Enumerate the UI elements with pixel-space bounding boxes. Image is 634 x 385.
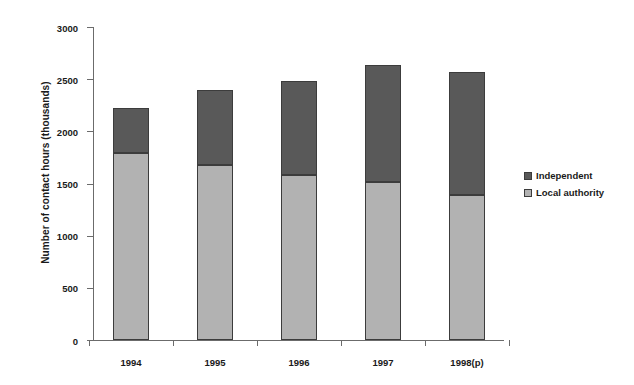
y-axis-tick-label: 500 — [62, 283, 78, 294]
bar-segment-local-authority[interactable] — [113, 153, 149, 340]
y-axis-tick: 1500 — [87, 184, 94, 185]
y-axis-tick-label: 1500 — [57, 179, 78, 190]
bar-segment-local-authority[interactable] — [449, 195, 485, 340]
legend-swatch-icon — [524, 189, 532, 197]
y-axis-tick: 1000 — [87, 236, 94, 237]
y-axis-tick: 2500 — [87, 79, 94, 80]
x-axis-tick-label: 1996 — [288, 357, 309, 368]
y-axis-tick-label: 2000 — [57, 126, 78, 137]
x-axis-tick — [425, 340, 426, 346]
y-axis-tick: 3000 — [87, 27, 94, 28]
bar-stack[interactable] — [113, 26, 149, 340]
legend-swatch-icon — [524, 172, 532, 180]
bar-segment-independent[interactable] — [113, 108, 149, 153]
chart-legend: IndependentLocal authority — [524, 168, 634, 202]
bar-stack[interactable] — [197, 26, 233, 340]
bar-stack[interactable] — [449, 26, 485, 340]
x-axis-tick-label: 1994 — [120, 357, 141, 368]
bar-segment-independent[interactable] — [197, 90, 233, 165]
bar-stack[interactable] — [365, 26, 401, 340]
x-axis-tick-label: 1998(p) — [450, 357, 483, 368]
x-axis-tick-label: 1997 — [372, 357, 393, 368]
y-axis-tick-label: 2500 — [57, 74, 78, 85]
legend-label: Independent — [536, 170, 592, 181]
bar-segment-independent[interactable] — [365, 65, 401, 182]
bar-segment-independent[interactable] — [449, 72, 485, 195]
bar-segment-independent[interactable] — [281, 81, 317, 175]
legend-label: Local authority — [536, 187, 604, 198]
x-axis-tick — [341, 340, 342, 346]
bar-segment-local-authority[interactable] — [281, 175, 317, 340]
y-axis-tick: 2000 — [87, 131, 94, 132]
chart-figure: Number of contact hours (thousands) 0500… — [0, 0, 634, 385]
y-axis-tick-label: 0 — [73, 335, 78, 346]
x-axis-tick — [173, 340, 174, 346]
x-axis-tick — [89, 340, 90, 346]
x-axis-tick — [257, 340, 258, 346]
x-axis-tick-label: 1995 — [204, 357, 225, 368]
y-axis-tick-label: 3000 — [57, 22, 78, 33]
y-axis-tick: 500 — [87, 288, 94, 289]
bar-stack[interactable] — [281, 26, 317, 340]
bar-segment-local-authority[interactable] — [197, 165, 233, 340]
y-axis-title: Number of contact hours (thousands) — [30, 0, 60, 345]
legend-item[interactable]: Local authority — [524, 185, 634, 200]
x-axis-tick — [509, 340, 510, 346]
bar-segment-local-authority[interactable] — [365, 182, 401, 340]
legend-item[interactable]: Independent — [524, 168, 634, 183]
x-axis-line — [93, 340, 504, 341]
plot-area: 050010001500200025003000 199419951996199… — [93, 27, 504, 341]
y-axis-tick-label: 1000 — [57, 231, 78, 242]
